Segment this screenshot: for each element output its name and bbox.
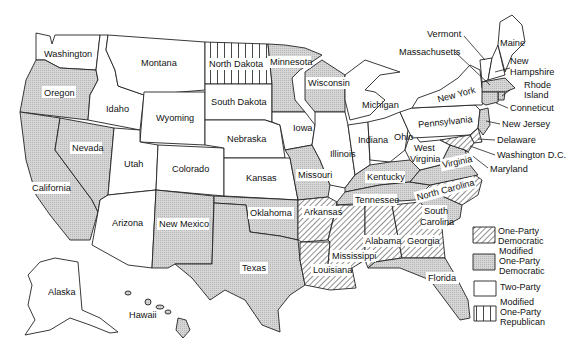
label-connecticut: Conneticut [510, 103, 554, 113]
svg-text:Republican: Republican [500, 317, 545, 327]
svg-text:Modified: Modified [499, 246, 533, 256]
label-missouri: Missouri [298, 170, 332, 180]
label-michigan: Michigan [362, 100, 399, 110]
label-colorado: Colorado [172, 164, 209, 174]
label-rhode-island-line2: Island [524, 90, 549, 100]
leader-connecticut [496, 103, 508, 108]
label-maine: Maine [500, 38, 525, 48]
label-new-mexico: New Mexico [159, 219, 209, 229]
label-west-virginia-line2: Virginia [410, 154, 441, 164]
label-ohio: Ohio [394, 132, 413, 142]
legend-swatch-stipple [473, 254, 495, 270]
label-new-jersey: New Jersey [502, 119, 550, 129]
svg-text:Modified: Modified [500, 297, 534, 307]
label-rhode-island-line1: Rhode [524, 80, 551, 90]
label-nebraska: Nebraska [227, 134, 267, 144]
label-illinois: Illinois [330, 149, 356, 159]
state-connecticut [482, 92, 498, 105]
label-indiana: Indiana [358, 135, 389, 145]
label-massachusetts: Massachusetts [399, 47, 461, 57]
label-arizona: Arizona [112, 218, 144, 228]
label-oregon: Oregon [44, 88, 75, 98]
label-maryland: Maryland [490, 164, 528, 174]
label-vermont: Vermont [427, 29, 462, 39]
label-hawaii: Hawaii [129, 310, 157, 320]
leader-washington-dc [470, 146, 495, 155]
state-new-york [412, 65, 490, 108]
label-new-hampshire-line1: New [510, 56, 529, 66]
label-montana: Montana [141, 58, 178, 68]
svg-text:One-Party: One-Party [500, 307, 542, 317]
svg-text:One-Party: One-Party [498, 226, 540, 236]
label-arkansas: Arkansas [304, 207, 343, 217]
label-washington: Washington [44, 49, 92, 59]
legend-swatch-vertical-hatch [474, 306, 496, 321]
label-florida: Florida [428, 273, 457, 283]
label-alaska: Alaska [48, 287, 76, 297]
svg-text:Democratic: Democratic [498, 236, 544, 246]
label-west-virginia-line1: West [414, 143, 435, 153]
label-south-carolina-line2: Carolina [420, 217, 455, 227]
label-wyoming: Wyoming [156, 113, 194, 123]
legend-swatch-diagonal-hatch [473, 227, 495, 243]
label-new-hampshire-line2: Hampshire [510, 67, 554, 77]
leader-vermont [464, 36, 485, 60]
label-california: California [32, 183, 72, 193]
legend-item-two-party: Two-Party [474, 281, 541, 296]
label-kansas: Kansas [246, 173, 277, 183]
label-north-dakota: North Dakota [209, 59, 264, 69]
label-wisconsin: Wisconsin [308, 78, 350, 88]
state-florida [368, 258, 470, 320]
label-idaho: Idaho [106, 104, 129, 114]
legend-item-modified-one-party-democratic: Modified One-Party Democratic [473, 246, 545, 276]
label-georgia: Georgia [407, 236, 441, 246]
state-arizona [92, 190, 156, 268]
label-south-dakota: South Dakota [211, 97, 268, 107]
label-south-carolina-line1: South [424, 206, 448, 216]
label-utah: Utah [124, 159, 143, 169]
label-louisiana: Louisiana [313, 265, 353, 275]
state-michigan [345, 60, 400, 120]
label-oklahoma: Oklahoma [250, 208, 293, 218]
svg-text:One-Party: One-Party [499, 256, 541, 266]
label-alabama: Alabama [365, 236, 402, 246]
svg-text:Two-Party: Two-Party [500, 282, 541, 292]
legend-swatch-blank [474, 281, 496, 296]
label-nevada: Nevada [72, 143, 105, 153]
legend-item-one-party-democratic: One-Party Democratic [473, 226, 544, 246]
label-iowa: Iowa [293, 123, 313, 133]
state-rhode-island [498, 92, 505, 100]
legend-item-modified-one-party-republican: Modified One-Party Republican [474, 297, 545, 327]
svg-text:Democratic: Democratic [499, 266, 545, 276]
label-texas: Texas [242, 263, 266, 273]
label-tennessee: Tennessee [355, 195, 399, 205]
us-party-competition-map: Washington Oregon California Nevada Idah… [0, 0, 575, 349]
label-kentucky: Kentucky [367, 172, 405, 182]
label-washington-dc: Washington D.C. [497, 150, 566, 160]
label-delaware: Delaware [497, 135, 536, 145]
label-mississippi: Mississippi [332, 251, 376, 261]
label-minnesota: Minnesota [270, 57, 313, 67]
legend: One-Party Democratic Modified One-Party … [473, 226, 545, 327]
